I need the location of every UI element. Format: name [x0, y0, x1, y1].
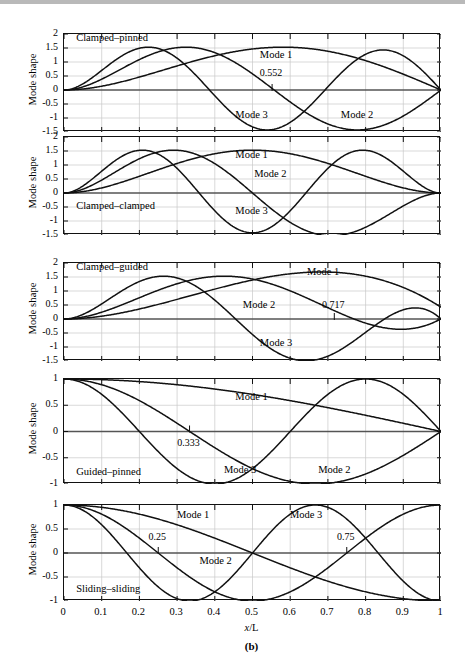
mode-label-clamped-clamped-3: Mode 3: [235, 205, 267, 216]
y-tick-label: -1.5: [23, 228, 58, 239]
plot-panel-clamped-guided: [63, 262, 440, 360]
mode-label-sliding-sliding-2: Mode 2: [199, 555, 231, 566]
x-axis-title: x/L: [232, 622, 272, 633]
mode-label-clamped-guided-3: Mode 3: [260, 337, 292, 348]
boundary-condition-label-sliding-sliding: Sliding–sliding: [76, 583, 140, 594]
node-annotation-clamped-guided-1: 0.717: [322, 299, 345, 310]
y-tick-label: 1: [23, 498, 58, 509]
x-tick-label: 0: [43, 606, 83, 617]
mode-label-guided-pinned-3: Mode 3: [224, 464, 256, 475]
node-annotation-guided-pinned-1: 0.333: [177, 437, 200, 448]
x-tick-label: 0.7: [307, 606, 347, 617]
page-top-rule: [0, 0, 465, 4]
x-tick-label: 0.1: [81, 606, 121, 617]
mode-label-guided-pinned-1: Mode 1: [235, 391, 267, 402]
y-tick-label: -1.5: [23, 354, 58, 365]
y-axis-title: Mode shape: [27, 397, 38, 459]
y-tick-label: -1: [23, 111, 58, 122]
y-tick-label: -1: [23, 594, 58, 605]
x-tick-label: 0.2: [118, 606, 158, 617]
x-tick-label: 0.3: [156, 606, 196, 617]
figure-caption: (b): [232, 640, 272, 652]
y-tick-label: -1: [23, 340, 58, 351]
mode-label-sliding-sliding-1: Mode 1: [177, 509, 209, 520]
y-axis-title: Mode shape: [27, 49, 38, 111]
x-tick-label: 0.8: [345, 606, 385, 617]
node-annotation-sliding-sliding-1: 0.25: [149, 531, 167, 542]
boundary-condition-label-clamped-pinned: Clamped–pinned: [76, 32, 148, 43]
x-tick-label: 1: [420, 606, 460, 617]
x-tick-label: 0.6: [269, 606, 309, 617]
mode-label-clamped-guided-2: Mode 2: [243, 299, 275, 310]
y-tick-label: 2: [23, 130, 58, 141]
y-tick-label: 2: [23, 27, 58, 38]
y-axis-title: Mode shape: [27, 152, 38, 214]
x-tick-label: 0.5: [232, 606, 272, 617]
y-tick-label: 1: [23, 372, 58, 383]
boundary-condition-label-guided-pinned: Guided–pinned: [76, 466, 141, 477]
y-axis-title: Mode shape: [27, 519, 38, 581]
y-tick-label: -1: [23, 214, 58, 225]
boundary-condition-label-clamped-guided: Clamped–guided: [76, 261, 148, 272]
mode-label-clamped-pinned-3: Mode 3: [235, 109, 267, 120]
node-annotation-sliding-sliding-2: 0.75: [337, 531, 355, 542]
plot-canvas-clamped-guided: [64, 263, 441, 361]
mode-label-clamped-clamped-1: Mode 1: [235, 149, 267, 160]
mode-label-clamped-guided-1: Mode 1: [307, 266, 339, 277]
figure-root: 21.510.50-0.5-1-1.5Mode shapeClamped–pin…: [0, 0, 465, 668]
mode-label-clamped-pinned-2: Mode 2: [341, 109, 373, 120]
x-tick-label: 0.4: [194, 606, 234, 617]
mode-label-clamped-pinned-1: Mode 1: [260, 49, 292, 60]
x-tick-label: 0.9: [382, 606, 422, 617]
mode-label-guided-pinned-2: Mode 2: [318, 464, 350, 475]
x-axis-title-suffix: /L: [249, 622, 258, 633]
y-tick-label: 2: [23, 256, 58, 267]
y-axis-title: Mode shape: [27, 278, 38, 340]
mode-label-sliding-sliding-3: Mode 3: [290, 509, 322, 520]
boundary-condition-label-clamped-clamped: Clamped–clamped: [76, 200, 155, 211]
node-annotation-clamped-pinned-1: 0.552: [260, 67, 283, 78]
mode-label-clamped-clamped-2: Mode 2: [254, 168, 286, 179]
y-tick-label: -1: [23, 477, 58, 488]
